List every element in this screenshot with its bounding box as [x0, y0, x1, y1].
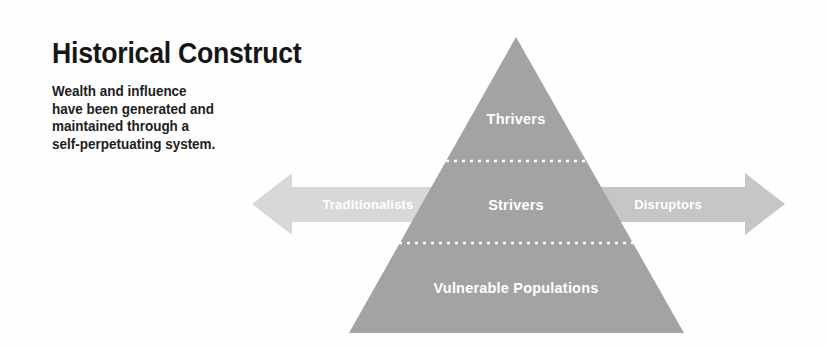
left-arrow-label: Traditionalists — [322, 197, 413, 212]
pyramid-tier-label-middle: Strivers — [488, 197, 544, 213]
historical-construct-figure: Historical Construct Wealth and influenc… — [0, 0, 827, 347]
right-arrow-label: Disruptors — [634, 197, 702, 212]
pyramid-diagram: Thrivers Strivers Vulnerable Populations… — [0, 0, 827, 347]
pyramid-tier-label-top: Thrivers — [487, 111, 546, 127]
pyramid-tier-label-bottom: Vulnerable Populations — [434, 280, 599, 296]
